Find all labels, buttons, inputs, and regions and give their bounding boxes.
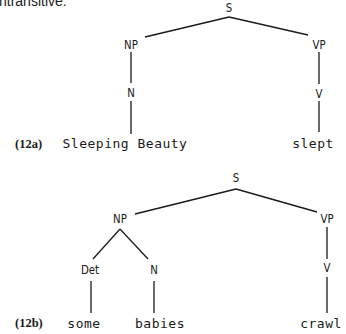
- branch-np-det-12b: [93, 229, 120, 259]
- word-some: some: [67, 317, 100, 330]
- branch-s-vp-12a: [229, 17, 308, 35]
- node-s-12b: S: [233, 172, 239, 184]
- branch-np-n-12b: [120, 229, 148, 259]
- node-s-12a: S: [226, 2, 232, 14]
- node-n-12b: N: [150, 264, 158, 276]
- syntax-tree-figure: ntransitive: S NP VP N V (12a) Sleeping …: [0, 0, 346, 334]
- node-vp-12a: VP: [312, 39, 325, 51]
- branch-s-np-12a: [145, 17, 229, 37]
- branch-s-vp-12b: [236, 189, 317, 212]
- node-v-12a: V: [316, 88, 323, 100]
- intro-text: ntransitive:: [0, 0, 67, 8]
- example-label-12b: (12b): [15, 317, 43, 330]
- branch-s-np-12b: [135, 189, 236, 214]
- word-slept: slept: [292, 137, 334, 150]
- node-v-12b: V: [324, 262, 331, 274]
- word-babies: babies: [135, 317, 185, 330]
- node-det-12b: Det: [81, 264, 99, 276]
- word-sleeping-beauty: Sleeping Beauty: [63, 137, 188, 150]
- node-n-12a: N: [127, 87, 135, 99]
- word-crawl: crawl: [300, 317, 342, 330]
- example-label-12a: (12a): [15, 138, 42, 151]
- tree-branches: [0, 0, 346, 334]
- node-np-12b: NP: [113, 213, 127, 225]
- node-vp-12b: VP: [320, 213, 333, 225]
- node-np-12a: NP: [124, 39, 138, 51]
